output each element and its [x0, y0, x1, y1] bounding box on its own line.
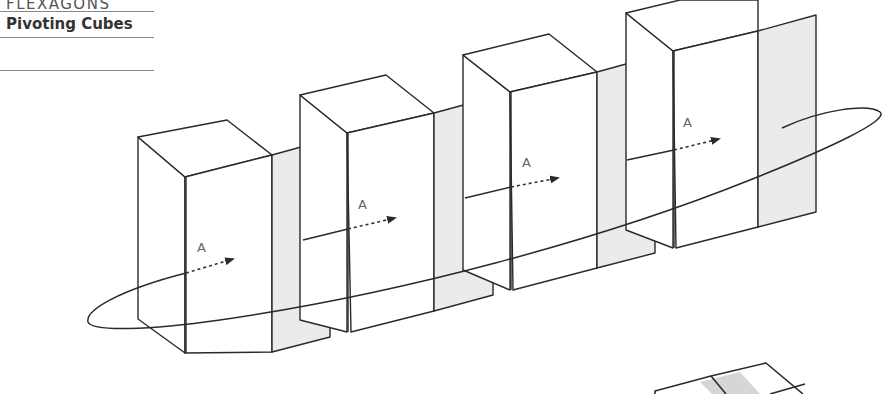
hinge-panel-4 — [758, 15, 816, 227]
arrow-label-3: A — [522, 155, 531, 170]
box-4 — [626, 0, 816, 248]
cube-net-partial — [655, 363, 805, 394]
pivoting-cubes-diagram: A A A A — [0, 0, 890, 394]
arrow-label-2: A — [358, 197, 367, 212]
arrow-label-4: A — [683, 115, 692, 130]
arrow-label-1: A — [197, 240, 206, 255]
